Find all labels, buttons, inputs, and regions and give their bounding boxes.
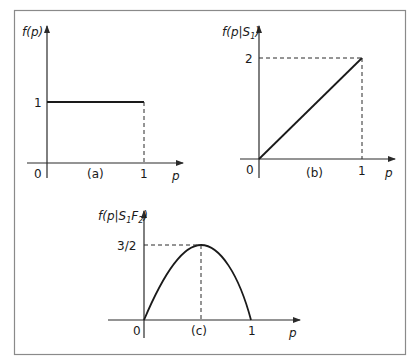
x-axis-label: p [171, 169, 180, 183]
panel-caption: (b) [306, 166, 323, 180]
x-axis-label: p [288, 326, 297, 340]
x-tick-label: 1 [140, 167, 148, 181]
panel-b: f(p|S1) 2 0 1 p (b) [222, 25, 395, 180]
panel-caption: (a) [87, 167, 104, 181]
y-tick-label: 1 [34, 96, 42, 110]
x-axis-label: p [384, 166, 393, 180]
x-tick-label: 1 [248, 324, 256, 338]
figure-frame [15, 11, 406, 355]
density-curve [144, 245, 251, 320]
density-line [259, 58, 362, 159]
origin-label: 0 [246, 163, 254, 177]
y-axis-label: f(p|S1) [222, 25, 260, 41]
y-tick-label: 2 [245, 52, 253, 66]
origin-label: 0 [34, 167, 42, 181]
origin-label: 0 [133, 324, 141, 338]
panel-a: f(p) 1 0 1 p (a) [22, 25, 183, 183]
panel-caption: (c) [191, 324, 207, 338]
x-tick-label: 1 [358, 164, 366, 178]
figure: f(p) 1 0 1 p (a) f(p|S1) 2 0 1 p (b) f(p… [0, 0, 416, 362]
y-axis-label: f(p) [22, 25, 43, 39]
y-axis-label: f(p|S1F2) [98, 209, 148, 225]
panel-c: f(p|S1F2) 3/2 0 1 p (c) [98, 209, 300, 340]
y-tick-label: 3/2 [117, 239, 136, 253]
